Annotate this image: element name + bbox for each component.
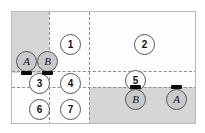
floor-plan-frame: 1 2 3 4 5 6 7 A B B A (11, 11, 196, 124)
agent-node-b-start[interactable]: B (37, 51, 58, 72)
marker-bar-b-start-icon (42, 71, 53, 75)
room-node-4[interactable]: 4 (60, 73, 81, 94)
agent-node-a-goal[interactable]: A (166, 89, 187, 110)
agent-node-a-start[interactable]: A (16, 51, 37, 72)
room-node-7[interactable]: 7 (60, 99, 81, 120)
diagram-root: 1 2 3 4 5 6 7 A B B A (0, 0, 205, 133)
room-node-3[interactable]: 3 (29, 73, 50, 94)
partition-line-vertical-2 (89, 12, 90, 124)
room-node-2[interactable]: 2 (134, 34, 155, 55)
agent-node-b-goal[interactable]: B (125, 89, 146, 110)
marker-bar-a-start-icon (21, 71, 32, 75)
partition-line-horizontal-1 (12, 71, 196, 72)
room-node-1[interactable]: 1 (60, 34, 81, 55)
room-node-6[interactable]: 6 (29, 99, 50, 120)
